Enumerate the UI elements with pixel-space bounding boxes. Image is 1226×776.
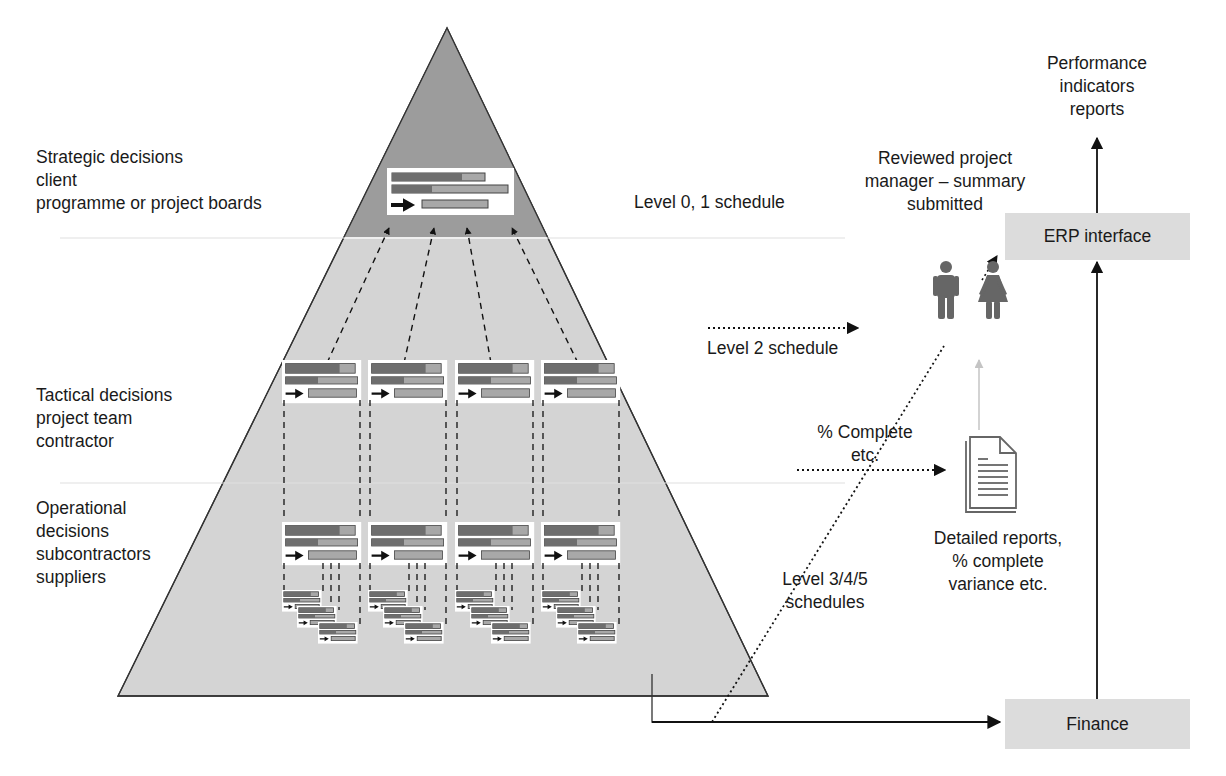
erp-interface-box: ERP interface xyxy=(1005,213,1190,260)
level345-label-line: schedules xyxy=(770,591,880,614)
tactical-label-line: project team xyxy=(36,407,172,430)
tactical-label: Tactical decisions project team contract… xyxy=(36,384,172,453)
gantt-card-level2 xyxy=(541,360,620,403)
detailed-reports-line: Detailed reports, xyxy=(918,527,1078,550)
strategic-label-line: client xyxy=(36,169,262,192)
level345-schedule-label: Level 3/4/5 schedules xyxy=(770,568,880,614)
tactical-label-line: contractor xyxy=(36,430,172,453)
percent-complete-flow xyxy=(712,346,944,722)
operational-label-line: suppliers xyxy=(36,566,151,589)
document-icon xyxy=(966,437,1016,512)
percent-complete-line: % Complete xyxy=(795,421,935,444)
gantt-card-level6 xyxy=(491,622,531,644)
level345-label-line: Level 3/4/5 xyxy=(770,568,880,591)
erp-interface-label: ERP interface xyxy=(1044,226,1152,247)
performance-line: indicators xyxy=(1030,75,1164,98)
gantt-card-level3 xyxy=(368,522,447,565)
gantt-card-level6 xyxy=(318,622,358,644)
gantt-card-level6 xyxy=(404,622,444,644)
operational-label-line: Operational xyxy=(36,497,151,520)
strategic-label: Strategic decisions client programme or … xyxy=(36,146,262,215)
operational-label-line: subcontractors xyxy=(36,543,151,566)
level01-schedule-label: Level 0, 1 schedule xyxy=(634,191,785,214)
gantt-card-level6 xyxy=(577,622,617,644)
gantt-card-level3 xyxy=(541,522,620,565)
gantt-card-level2 xyxy=(282,360,361,403)
strategic-label-line: Strategic decisions xyxy=(36,146,262,169)
gantt-card-level2 xyxy=(455,360,534,403)
gantt-card-level3 xyxy=(282,522,361,565)
detailed-reports-line: variance etc. xyxy=(918,573,1078,596)
tactical-label-line: Tactical decisions xyxy=(36,384,172,407)
performance-line: Performance xyxy=(1030,52,1164,75)
gantt-card-level2 xyxy=(368,360,447,403)
percent-complete-label: % Complete etc. xyxy=(795,421,935,467)
performance-indicators-label: Performance indicators reports xyxy=(1030,52,1164,121)
percent-complete-line: etc. xyxy=(795,444,935,467)
reviewed-summary-label: Reviewed project manager – summary submi… xyxy=(840,147,1050,216)
finance-box: Finance xyxy=(1005,699,1190,749)
reviewed-line: Reviewed project xyxy=(840,147,1050,170)
gantt-card-level01 xyxy=(387,168,514,215)
finance-label: Finance xyxy=(1066,714,1128,735)
performance-line: reports xyxy=(1030,98,1164,121)
operational-label: Operational decisions subcontractors sup… xyxy=(36,497,151,589)
gantt-card-level3 xyxy=(455,522,534,565)
operational-label-line: decisions xyxy=(36,520,151,543)
strategic-label-line: programme or project boards xyxy=(36,192,262,215)
man-woman-icon xyxy=(933,261,1008,319)
reviewed-line: manager – summary xyxy=(840,170,1050,193)
detailed-reports-line: % complete xyxy=(918,550,1078,573)
level2-schedule-label: Level 2 schedule xyxy=(707,337,838,360)
detailed-reports-label: Detailed reports, % complete variance et… xyxy=(918,527,1078,596)
